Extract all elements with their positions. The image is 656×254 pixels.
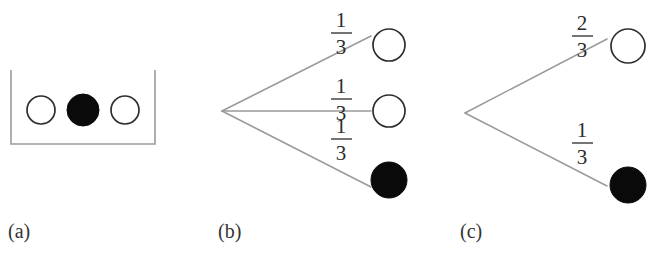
panel-b-fraction-denominator-0: 3 [336,35,347,59]
panel-c-fraction-numerator-0: 2 [577,11,588,35]
panel-c-probability-label-0: 2 3 [572,11,593,62]
panel-b-caption: (b) [218,220,241,243]
panel-b-fraction-denominator-2: 3 [336,141,347,165]
panel-b-fraction-numerator-2: 1 [336,114,347,138]
panel-c: 2 3 1 3 (c) [460,11,646,243]
panel-c-fraction-denominator-1: 3 [577,145,588,169]
panel-b: 1 3 1 3 1 3 (b) [218,8,407,243]
panel-b-probability-label-0: 1 3 [331,8,352,59]
panel-b-fraction-numerator-1: 1 [336,74,347,98]
panel-a-caption: (a) [8,220,30,243]
panel-b-outcome-ball-black-bottom [371,162,407,198]
panel-b-outcome-ball-white-middle [373,95,405,127]
figure-container: (a) 1 3 1 3 1 3 [0,0,656,254]
urn-ball-white-right [111,96,139,124]
panel-c-fraction-numerator-1: 1 [577,118,588,142]
urn-ball-white-left [27,96,55,124]
panel-c-probability-label-1: 1 3 [572,118,593,169]
panel-b-branch-line-2 [222,111,371,187]
probability-figure: (a) 1 3 1 3 1 3 [0,0,656,254]
panel-b-outcome-ball-white-top [373,29,405,61]
panel-c-fraction-denominator-0: 3 [577,38,588,62]
panel-b-branch-line-0 [222,36,371,111]
panel-c-outcome-ball-black [610,167,646,203]
panel-c-outcome-ball-white [611,29,645,63]
panel-b-fraction-numerator-0: 1 [336,8,347,32]
urn-ball-black-middle [67,94,99,126]
panel-c-caption: (c) [460,220,482,243]
panel-a: (a) [8,70,155,243]
panel-b-probability-label-2: 1 3 [331,114,352,165]
